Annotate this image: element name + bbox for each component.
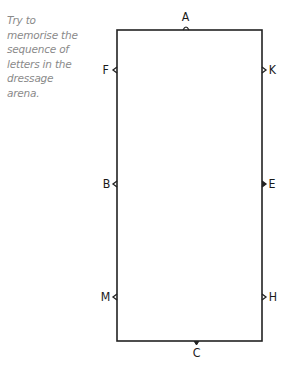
letter-m: M (101, 290, 111, 303)
letter-f: F (103, 63, 109, 76)
dressage-arena-diagram (0, 0, 295, 377)
letter-h: H (269, 290, 277, 303)
marker-e (262, 181, 266, 187)
letter-a: A (182, 10, 190, 23)
letter-c: C (193, 346, 201, 359)
letter-e: E (269, 177, 276, 190)
letter-k: K (269, 63, 276, 76)
arena-outline (117, 30, 262, 341)
letter-b: B (103, 177, 111, 190)
